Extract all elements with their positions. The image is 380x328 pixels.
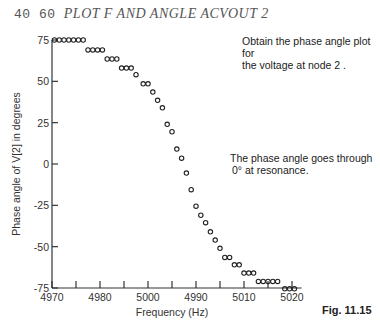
data-points [52, 38, 296, 291]
x-tick-label: 5020 [280, 291, 304, 303]
data-point [91, 48, 95, 52]
data-point [86, 48, 90, 52]
data-point [251, 271, 255, 275]
data-point [194, 204, 198, 208]
data-point [256, 279, 260, 283]
data-point [271, 279, 275, 283]
x-tick-label: 5010 [232, 291, 256, 303]
data-point [100, 48, 104, 52]
data-point [227, 255, 231, 259]
x-axis-title: Frequency (Hz) [136, 306, 208, 318]
data-point [208, 230, 212, 234]
data-point [160, 106, 164, 110]
y-tick-label: 75 [37, 34, 49, 46]
x-tick-label: 4990 [184, 291, 208, 303]
y-tick-label: -25 [34, 199, 49, 211]
y-tick-label: 50 [37, 75, 49, 87]
x-tick-label: 4980 [88, 291, 112, 303]
data-point [141, 82, 145, 86]
data-point [242, 271, 246, 275]
data-point [81, 38, 85, 42]
data-point [67, 38, 71, 42]
data-point [62, 38, 66, 42]
data-point [275, 279, 279, 283]
y-axis-title: Phase angle of V[2] in degrees [10, 92, 22, 236]
axes: 7550250-25-50-75497049805000499050105020 [34, 34, 304, 303]
data-point [155, 98, 159, 102]
data-point [184, 171, 188, 175]
phase-angle-chart: 7550250-25-50-75497049805000499050105020… [0, 0, 380, 328]
data-point [71, 38, 75, 42]
data-point [189, 187, 193, 191]
data-point [95, 48, 99, 52]
data-point [134, 73, 138, 77]
data-point [247, 271, 251, 275]
y-tick-label: 25 [37, 117, 49, 129]
data-point [110, 57, 114, 61]
data-point [129, 66, 133, 70]
data-point [105, 57, 109, 61]
data-point [76, 38, 80, 42]
data-point [151, 90, 155, 94]
data-point [175, 147, 179, 151]
data-point [218, 246, 222, 250]
data-point [146, 82, 150, 86]
data-point [170, 130, 174, 134]
data-point [223, 255, 227, 259]
data-point [119, 66, 123, 70]
x-tick-label: 4970 [40, 291, 64, 303]
data-point [203, 220, 207, 224]
data-point [213, 238, 217, 242]
data-point [232, 263, 236, 267]
data-point [237, 263, 241, 267]
data-point [199, 213, 203, 217]
y-tick-label: -50 [34, 241, 49, 253]
data-point [115, 57, 119, 61]
data-point [261, 279, 265, 283]
y-tick-label: 0 [43, 158, 49, 170]
data-point [165, 122, 169, 126]
data-point [179, 156, 183, 160]
x-tick-label: 5000 [136, 291, 160, 303]
data-point [124, 66, 128, 70]
